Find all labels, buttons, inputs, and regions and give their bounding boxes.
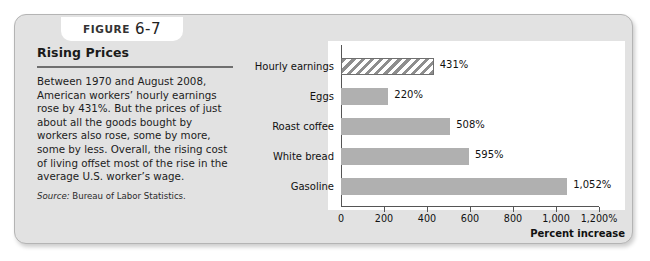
bar-chart-plot: Percent increase 02004006008001,0001,200… — [341, 41, 625, 210]
bar-value-label: 508% — [456, 119, 485, 130]
bar-value-label: 1,052% — [573, 179, 611, 190]
bar-value-label: 220% — [394, 89, 423, 100]
x-axis-tick — [427, 207, 428, 212]
x-axis-tick — [513, 207, 514, 212]
x-axis-tick-label: 1,000 — [542, 213, 569, 224]
category-label: Eggs — [310, 91, 334, 102]
x-axis-tick — [599, 207, 600, 212]
bar — [341, 58, 434, 75]
figure-screenshot: Figure 6-7 Rising Prices Between 1970 an… — [0, 0, 650, 261]
figure-label: Figure — [83, 23, 130, 35]
bar — [341, 88, 388, 105]
panel-body-text: Between 1970 and August 2008, American w… — [37, 75, 233, 184]
x-axis-tick-label: 800 — [504, 213, 522, 224]
bar-value-label: 431% — [440, 59, 469, 70]
category-label: White bread — [273, 151, 334, 162]
x-axis-tick-label: 1,200% — [581, 213, 618, 224]
panel-title: Rising Prices — [37, 45, 233, 60]
x-axis-tick — [556, 207, 557, 212]
x-axis-tick-label: 0 — [338, 213, 344, 224]
figure-panel: Figure 6-7 Rising Prices Between 1970 an… — [14, 14, 633, 244]
source-label: Source: — [37, 191, 70, 201]
bar-row: 1,052% — [341, 178, 599, 195]
x-axis-tick-label: 600 — [461, 213, 479, 224]
category-label: Gasoline — [291, 181, 334, 192]
bar — [341, 178, 567, 195]
source-note: Source: Bureau of Labor Statistics. — [37, 191, 233, 202]
bar-row: 595% — [341, 148, 599, 165]
bar — [341, 118, 450, 135]
x-axis-tick — [470, 207, 471, 212]
bar — [341, 148, 469, 165]
bar-row: 431% — [341, 58, 599, 75]
bar-value-label: 595% — [475, 149, 504, 160]
x-axis-tick-label: 400 — [418, 213, 436, 224]
description-column: Rising Prices Between 1970 and August 20… — [37, 45, 233, 202]
title-divider — [37, 66, 233, 68]
source-text: Bureau of Labor Statistics. — [72, 191, 185, 201]
x-axis-title: Percent increase — [530, 228, 625, 239]
x-axis-tick-label: 200 — [375, 213, 393, 224]
category-label: Roast coffee — [272, 121, 334, 132]
figure-number: 6-7 — [135, 20, 161, 38]
x-axis-tick — [384, 207, 385, 212]
category-label: Hourly earnings — [255, 61, 334, 72]
bar-row: 220% — [341, 88, 599, 105]
bar-row: 508% — [341, 118, 599, 135]
chart-card: Percent increase 02004006008001,0001,200… — [328, 41, 625, 210]
figure-number-tab: Figure 6-7 — [61, 17, 183, 41]
